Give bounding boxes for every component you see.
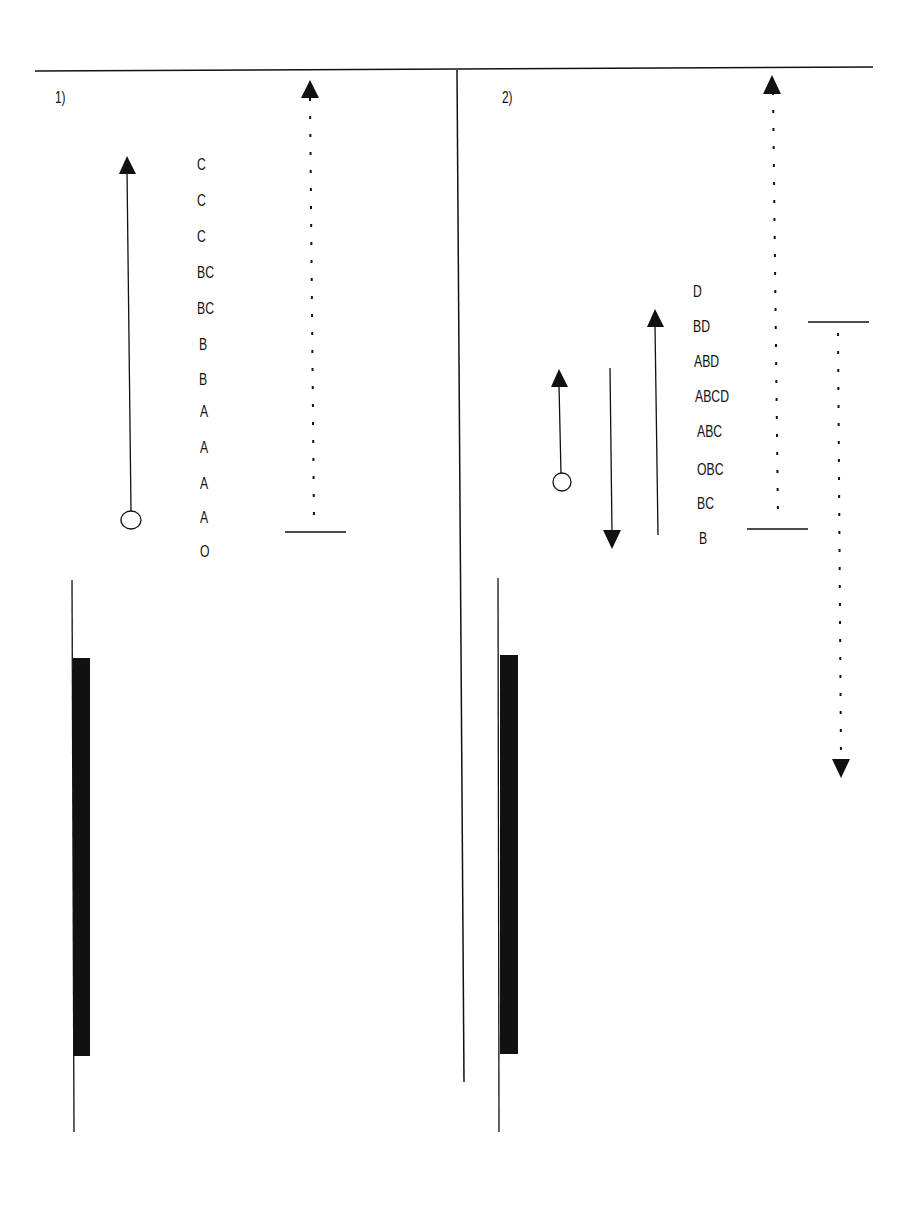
panel-2-label: 2) [502,88,513,108]
stack-label: B [199,371,207,388]
arrow-up-icon [551,369,568,387]
arrow-up-icon [647,309,664,327]
solid-bar [500,655,518,1054]
stack-label: C [197,192,206,209]
arrow-up-icon [119,156,136,174]
stack-label: BC [197,300,214,317]
solid-arrow-shaft [127,170,131,511]
arrow-down-icon [603,530,621,549]
stack-label: A [200,403,208,420]
start-circle-icon [121,511,141,529]
stack-label: C [197,156,206,173]
stack-label: D [693,283,702,300]
dotted-arrow-shaft [773,92,778,520]
arrow-up-icon [301,80,319,98]
solid-bar [73,658,90,1056]
panel-divider [457,70,464,1082]
long-solid-arrow-shaft [655,325,658,535]
panel-1-graphics [72,80,346,1132]
stack-label: A [200,439,208,456]
stack-label: ABD [694,353,719,370]
arrow-down-icon [832,759,850,778]
diagram-canvas [0,0,921,1211]
dotted-arrow-shaft [310,98,314,523]
stack-label: A [200,475,208,492]
down-arrow-shaft [610,368,612,533]
stack-label: B [699,530,707,547]
stack-label: A [200,509,208,526]
start-circle-icon [553,473,571,491]
stem-line [498,578,499,1132]
top-rule [35,67,873,71]
stack-label: BD [693,318,710,335]
dotted-down-arrow-shaft [838,333,841,758]
stack-label: BC [197,264,214,281]
arrow-up-icon [763,75,781,94]
stack-label: O [200,543,210,560]
stack-label: C [197,228,206,245]
short-solid-arrow-shaft [559,385,561,474]
stack-label: ABCD [695,388,729,405]
stack-label: B [199,336,207,353]
panel-2-graphics [498,75,869,1132]
panel-1-label: 1) [55,88,66,108]
stack-label: ABC [697,423,722,440]
stack-label: BC [697,495,714,512]
stack-label: OBC [697,461,724,478]
